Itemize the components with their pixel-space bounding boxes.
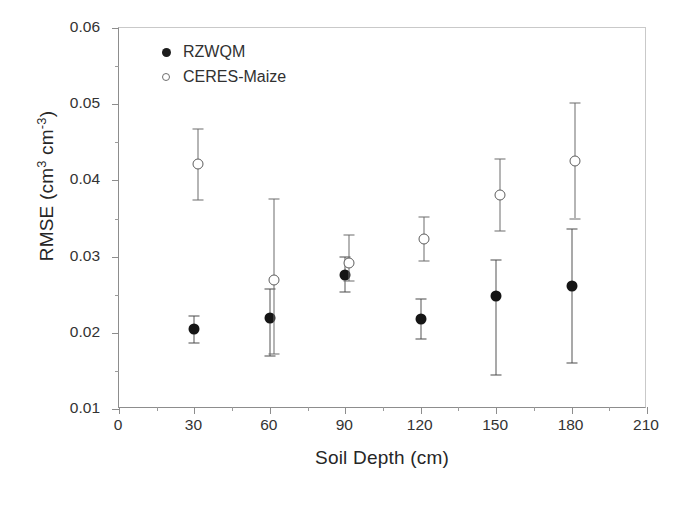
- error-bar-cap: [494, 230, 505, 231]
- error-bar-line: [575, 103, 576, 218]
- chart-figure: RMSE (cm3 cm-3) Soil Depth (cm) 0.010.02…: [0, 0, 683, 507]
- legend-item-rzwqm[interactable]: RZWQM: [149, 42, 286, 62]
- error-bar-cap: [344, 235, 355, 236]
- data-point-ceres-maize[interactable]: [494, 189, 505, 200]
- y-tick-major: [112, 333, 119, 334]
- error-bar-cap: [344, 280, 355, 281]
- y-tick-minor: [115, 66, 119, 67]
- x-tick-major: [119, 407, 120, 414]
- x-tick-label: 90: [336, 416, 353, 434]
- error-bar-cap: [415, 299, 426, 300]
- error-bar-cap: [340, 256, 351, 257]
- data-point-rzwqm[interactable]: [340, 269, 351, 280]
- error-bar-cap: [570, 218, 581, 219]
- error-bar-cap: [570, 103, 581, 104]
- error-bar-cap: [340, 291, 351, 292]
- x-tick-major: [270, 407, 271, 414]
- error-bar-cap: [189, 316, 200, 317]
- y-tick-major: [112, 257, 119, 258]
- filled-circle-icon: [149, 48, 183, 57]
- error-bar-cap: [264, 355, 275, 356]
- error-bar-cap: [419, 261, 430, 262]
- x-tick-major: [647, 407, 648, 414]
- error-bar-cap: [268, 354, 279, 355]
- x-tick-minor: [232, 407, 233, 411]
- open-circle-icon: [149, 73, 183, 81]
- x-tick-minor: [383, 407, 384, 411]
- x-tick-major: [572, 407, 573, 414]
- x-tick-major: [194, 407, 195, 414]
- data-point-ceres-maize[interactable]: [193, 159, 204, 170]
- error-bar-cap: [419, 216, 430, 217]
- x-tick-label: 120: [407, 416, 433, 434]
- error-bar-cap: [566, 229, 577, 230]
- error-bar-line: [273, 199, 274, 354]
- error-bar-line: [424, 217, 425, 261]
- error-bar-line: [194, 316, 195, 343]
- error-bar-cap: [494, 159, 505, 160]
- x-tick-minor: [609, 407, 610, 411]
- error-bar-cap: [193, 129, 204, 130]
- x-tick-minor: [458, 407, 459, 411]
- data-point-rzwqm[interactable]: [264, 312, 275, 323]
- error-bar-line: [349, 235, 350, 281]
- error-bar-cap: [268, 199, 279, 200]
- plot-area: RZWQM CERES-Maize: [118, 27, 646, 408]
- y-tick-major: [112, 104, 119, 105]
- legend: RZWQM CERES-Maize: [149, 42, 286, 87]
- legend-item-ceres-maize[interactable]: CERES-Maize: [149, 67, 286, 87]
- error-bar-cap: [193, 200, 204, 201]
- data-point-rzwqm[interactable]: [491, 291, 502, 302]
- data-point-ceres-maize[interactable]: [344, 257, 355, 268]
- y-tick-minor: [115, 295, 119, 296]
- x-tick-label: 210: [633, 416, 659, 434]
- error-bar-cap: [415, 338, 426, 339]
- error-bar-cap: [566, 363, 577, 364]
- y-tick-major: [112, 28, 119, 29]
- y-tick-major: [112, 409, 119, 410]
- error-bar-line: [269, 289, 270, 356]
- x-tick-minor: [534, 407, 535, 411]
- x-tick-label: 60: [260, 416, 277, 434]
- legend-label-rzwqm: RZWQM: [183, 43, 245, 61]
- y-tick-minor: [115, 219, 119, 220]
- data-point-rzwqm[interactable]: [415, 314, 426, 325]
- x-tick-label: 0: [114, 416, 123, 434]
- error-bar-cap: [264, 288, 275, 289]
- data-point-rzwqm[interactable]: [189, 323, 200, 334]
- error-bar-cap: [189, 342, 200, 343]
- error-bar-line: [198, 129, 199, 200]
- error-bar-line: [499, 159, 500, 231]
- y-tick-minor: [115, 371, 119, 372]
- x-tick-label: 150: [482, 416, 508, 434]
- data-point-ceres-maize[interactable]: [570, 155, 581, 166]
- error-bar-line: [496, 260, 497, 376]
- x-tick-label: 30: [185, 416, 202, 434]
- x-tick-major: [345, 407, 346, 414]
- legend-label-ceres-maize: CERES-Maize: [183, 68, 286, 86]
- x-tick-minor: [308, 407, 309, 411]
- y-tick-minor: [115, 142, 119, 143]
- error-bar-line: [345, 257, 346, 292]
- x-tick-major: [496, 407, 497, 414]
- data-point-ceres-maize[interactable]: [419, 234, 430, 245]
- error-bar-cap: [491, 259, 502, 260]
- x-tick-minor: [157, 407, 158, 411]
- x-tick-label: 180: [558, 416, 584, 434]
- error-bar-line: [420, 299, 421, 339]
- error-bar-cap: [491, 375, 502, 376]
- data-point-ceres-maize[interactable]: [268, 275, 279, 286]
- error-bar-line: [571, 229, 572, 363]
- y-tick-major: [112, 180, 119, 181]
- data-point-rzwqm[interactable]: [566, 280, 577, 291]
- x-tick-major: [421, 407, 422, 414]
